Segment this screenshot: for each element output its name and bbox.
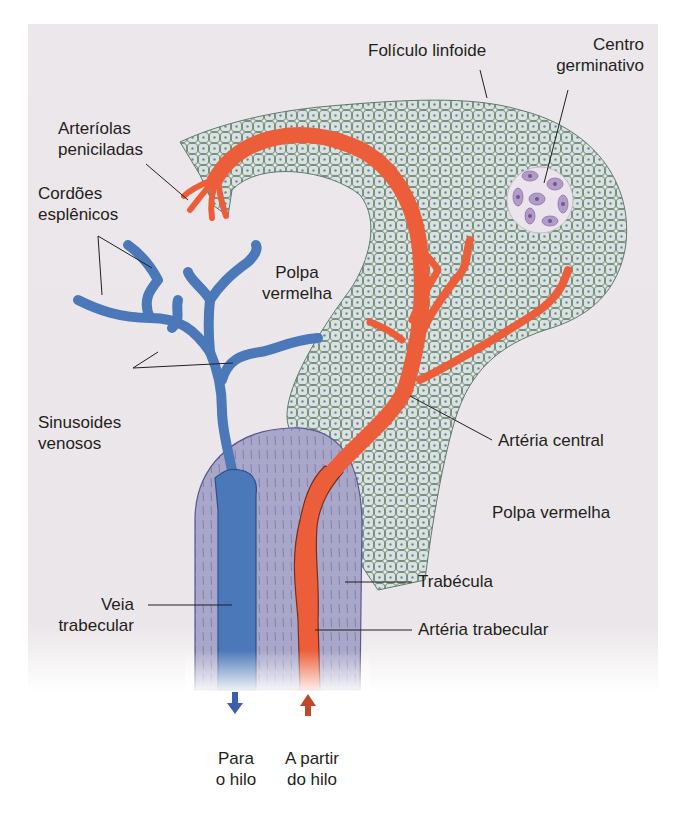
label-text: trabecular bbox=[38, 615, 134, 636]
label-cordoes-esplenicos: Cordões esplênicos bbox=[38, 183, 118, 225]
label-arteria-central: Artéria central bbox=[498, 430, 604, 451]
up-arrow-icon bbox=[300, 694, 316, 716]
spleen-diagram: Folículo linfoide Centro germinativo Art… bbox=[0, 0, 676, 814]
label-trabecula: Trabécula bbox=[418, 571, 493, 592]
label-arteria-trabecular: Artéria trabecular bbox=[418, 619, 548, 640]
label-text: Artéria central bbox=[498, 430, 604, 451]
label-text: Centro bbox=[548, 34, 644, 55]
label-veia-trabecular: Veia trabecular bbox=[38, 594, 134, 636]
label-text: Trabécula bbox=[418, 571, 493, 592]
label-text: Para bbox=[204, 748, 268, 769]
down-arrow-icon bbox=[227, 692, 243, 714]
label-text: peniciladas bbox=[58, 139, 143, 160]
label-text: Veia bbox=[38, 594, 134, 615]
label-text: A partir bbox=[276, 748, 348, 769]
label-text: Arteríolas bbox=[58, 118, 143, 139]
label-arteriolas-peniciladas: Arteríolas peniciladas bbox=[58, 118, 143, 160]
label-text: Cordões bbox=[38, 183, 118, 204]
label-text: venosos bbox=[38, 433, 121, 454]
label-text: Polpa vermelha bbox=[492, 502, 610, 523]
label-foliculo-linfoide: Folículo linfoide bbox=[368, 40, 486, 61]
penicillar-arterioles bbox=[184, 180, 226, 218]
label-centro-germinativo: Centro germinativo bbox=[548, 34, 644, 76]
label-text: Sinusoides bbox=[38, 412, 121, 433]
label-text: vermelha bbox=[262, 283, 332, 304]
label-text: Polpa bbox=[262, 262, 332, 283]
label-text: do hilo bbox=[276, 769, 348, 790]
label-text: germinativo bbox=[548, 55, 644, 76]
label-sinusoides-venosos: Sinusoides venosos bbox=[38, 412, 121, 454]
label-text: Artéria trabecular bbox=[418, 619, 548, 640]
label-para-o-hilo: Para o hilo bbox=[204, 748, 268, 790]
label-a-partir-do-hilo: A partir do hilo bbox=[276, 748, 348, 790]
label-text: o hilo bbox=[204, 769, 268, 790]
label-text: esplênicos bbox=[38, 204, 118, 225]
label-text: Folículo linfoide bbox=[368, 40, 486, 61]
label-polpa-vermelha-right: Polpa vermelha bbox=[492, 502, 610, 523]
label-polpa-vermelha-top: Polpa vermelha bbox=[262, 262, 332, 304]
